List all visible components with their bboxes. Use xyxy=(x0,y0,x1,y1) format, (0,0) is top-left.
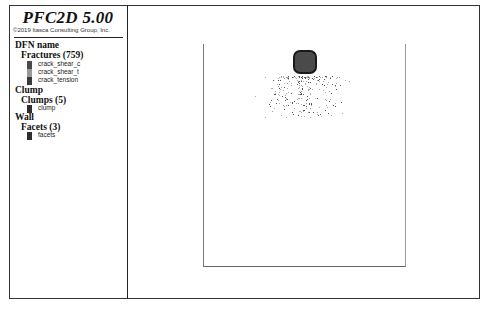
crack-mark xyxy=(304,116,305,117)
app-title: PFC2D 5.00 xyxy=(9,8,127,28)
crack-mark xyxy=(288,77,289,78)
crack-mark xyxy=(299,81,300,82)
crack-mark xyxy=(301,91,302,92)
crack-mark xyxy=(331,93,332,94)
crack-mark xyxy=(285,95,286,96)
crack-mark xyxy=(288,92,289,93)
crack-mark xyxy=(284,87,285,88)
crack-mark xyxy=(292,102,293,103)
crack-mark xyxy=(319,76,320,77)
crack-mark xyxy=(349,81,350,82)
swatch-icon xyxy=(27,61,32,69)
crack-mark xyxy=(288,105,289,106)
crack-mark xyxy=(293,114,294,115)
crack-mark xyxy=(302,76,303,77)
crack-mark xyxy=(292,103,293,104)
crack-mark xyxy=(281,115,282,116)
crack-mark xyxy=(336,83,337,84)
crack-mark xyxy=(336,89,337,90)
crack-mark xyxy=(319,81,320,82)
crack-mark xyxy=(283,90,284,91)
crack-mark xyxy=(275,94,276,95)
crack-mark xyxy=(287,77,288,78)
crack-mark xyxy=(299,85,300,86)
legend-divider xyxy=(14,37,123,38)
crack-mark xyxy=(342,113,343,114)
crack-mark xyxy=(298,88,299,89)
crack-mark xyxy=(335,103,336,104)
crack-mark xyxy=(278,94,279,95)
crack-mark xyxy=(307,99,308,100)
crack-mark xyxy=(304,77,305,78)
crack-mark xyxy=(269,104,270,105)
crack-mark xyxy=(280,89,281,90)
crack-mark xyxy=(298,94,299,95)
crack-mark xyxy=(294,101,295,102)
crack-mark xyxy=(316,84,317,85)
crack-mark xyxy=(303,81,304,82)
crack-mark xyxy=(322,84,323,85)
crack-mark xyxy=(290,102,291,103)
crack-mark xyxy=(317,98,318,99)
crack-mark xyxy=(294,108,295,109)
crack-mark xyxy=(326,87,327,88)
crack-mark xyxy=(301,81,302,82)
crack-mark xyxy=(306,108,307,109)
crack-mark xyxy=(309,78,310,79)
crack-mark xyxy=(287,83,288,84)
crack-mark xyxy=(335,106,336,107)
crack-mark xyxy=(317,80,318,81)
crack-mark xyxy=(311,105,312,106)
crack-mark xyxy=(310,94,311,95)
crack-mark xyxy=(302,88,303,89)
crack-mark xyxy=(323,90,324,91)
crack-mark xyxy=(330,99,331,100)
legend-subheading-fractures: Fractures (759) xyxy=(21,50,83,60)
crack-mark xyxy=(312,78,313,79)
crack-mark xyxy=(299,98,300,99)
crack-mark xyxy=(298,82,299,83)
legend-heading-clump: Clump xyxy=(15,85,43,95)
crack-mark xyxy=(328,113,329,114)
crack-mark xyxy=(297,99,298,100)
crack-mark xyxy=(278,78,279,79)
crack-mark xyxy=(326,100,327,101)
crack-mark xyxy=(309,104,310,105)
crack-mark xyxy=(299,91,300,92)
crack-mark xyxy=(301,112,302,113)
crack-mark xyxy=(310,88,311,89)
crack-mark xyxy=(276,103,277,104)
crack-mark xyxy=(265,117,266,118)
crack-mark xyxy=(279,88,280,89)
crack-mark xyxy=(317,77,318,78)
crack-mark xyxy=(270,106,271,107)
crack-mark xyxy=(286,93,287,94)
crack-mark xyxy=(311,104,312,105)
crack-mark xyxy=(298,103,299,104)
crack-mark xyxy=(312,89,313,90)
crack-mark xyxy=(306,77,307,78)
crack-mark xyxy=(329,91,330,92)
crack-mark xyxy=(309,98,310,99)
crack-mark xyxy=(324,79,325,80)
crack-mark xyxy=(299,76,300,77)
crack-mark xyxy=(287,99,288,100)
crack-mark xyxy=(265,77,266,78)
crack-mark xyxy=(314,76,315,77)
crack-mark xyxy=(309,89,310,90)
crack-mark xyxy=(332,76,333,77)
crack-mark xyxy=(316,83,317,84)
crack-mark xyxy=(330,78,331,79)
crack-mark xyxy=(332,84,333,85)
crack-mark xyxy=(292,77,293,78)
crack-mark xyxy=(302,78,303,79)
crack-mark xyxy=(335,85,336,86)
crack-mark xyxy=(308,76,309,77)
crack-mark xyxy=(307,77,308,78)
crack-mark xyxy=(325,110,326,111)
crack-mark xyxy=(314,78,315,79)
crack-mark xyxy=(313,112,314,113)
crack-mark xyxy=(299,83,300,84)
crack-mark xyxy=(301,80,302,81)
crack-mark xyxy=(255,96,256,97)
